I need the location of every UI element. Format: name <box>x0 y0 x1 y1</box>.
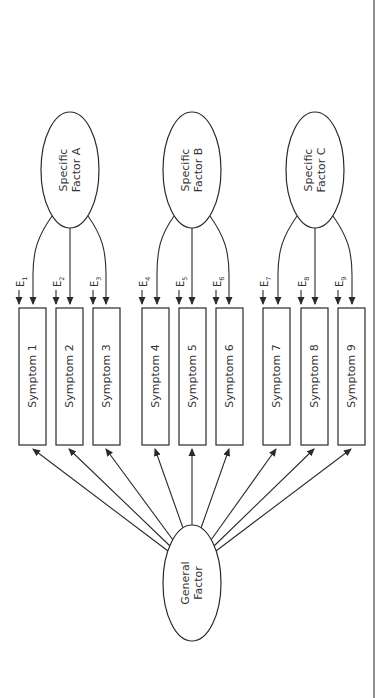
specific-factor-c-paths <box>278 216 352 304</box>
symptom-box-9: Symptom 9 <box>338 308 365 445</box>
error-labels: E1 E2 E3 E4 E5 E6 E7 E8 E9 <box>15 277 348 287</box>
svg-text:Symptom 3: Symptom 3 <box>100 344 113 407</box>
specific-factor-b: Specific Factor B <box>163 112 221 228</box>
svg-text:General: General <box>179 561 192 604</box>
error-arrows <box>19 290 338 304</box>
error-label-2: E2 <box>52 277 66 287</box>
svg-text:Symptom 4: Symptom 4 <box>149 344 162 407</box>
error-label-1: E1 <box>15 277 29 287</box>
symptom-box-7: Symptom 7 <box>263 308 290 445</box>
error-label-6: E6 <box>212 277 226 287</box>
svg-text:Symptom 5: Symptom 5 <box>186 344 199 407</box>
svg-text:Factor B: Factor B <box>192 148 205 193</box>
specific-factor-a-paths <box>33 216 106 304</box>
specific-factor-a: Specific Factor A <box>41 112 99 228</box>
error-label-8: E8 <box>297 277 311 287</box>
svg-text:Factor: Factor <box>192 566 205 600</box>
svg-text:Symptom 8: Symptom 8 <box>308 344 321 407</box>
error-label-7: E7 <box>259 277 273 287</box>
symptom-box-2: Symptom 2 <box>56 308 83 445</box>
svg-text:Symptom 1: Symptom 1 <box>26 344 39 407</box>
svg-text:Factor A: Factor A <box>70 147 83 192</box>
error-label-3: E3 <box>89 277 103 287</box>
svg-text:Specific: Specific <box>57 149 70 192</box>
specific-factor-b-paths <box>157 216 229 304</box>
svg-text:Symptom 7: Symptom 7 <box>270 344 283 407</box>
symptom-boxes: Symptom 1 Symptom 2 Symptom 3 Symptom 4 … <box>19 308 365 445</box>
symptom-box-8: Symptom 8 <box>301 308 328 445</box>
symptom-box-4: Symptom 4 <box>142 308 169 445</box>
error-label-4: E4 <box>138 277 152 287</box>
svg-text:Symptom 6: Symptom 6 <box>223 344 236 407</box>
svg-text:Symptom 9: Symptom 9 <box>345 344 358 407</box>
symptom-box-6: Symptom 6 <box>216 308 243 445</box>
bifactor-diagram: E1 E2 E3 E4 E5 E6 E7 E8 E9 Symptom 1 Sym… <box>0 0 382 698</box>
error-label-9: E9 <box>334 277 348 287</box>
symptom-box-1: Symptom 1 <box>19 308 46 445</box>
svg-text:Factor C: Factor C <box>315 147 328 192</box>
symptom-box-5: Symptom 5 <box>179 308 206 445</box>
error-label-5: E5 <box>175 277 189 287</box>
general-factor: General Factor <box>163 525 221 641</box>
svg-text:Specific: Specific <box>302 149 315 192</box>
svg-text:Symptom 2: Symptom 2 <box>63 344 76 407</box>
specific-factor-c: Specific Factor C <box>286 112 344 228</box>
symptom-box-3: Symptom 3 <box>93 308 120 445</box>
svg-text:Specific: Specific <box>179 149 192 192</box>
